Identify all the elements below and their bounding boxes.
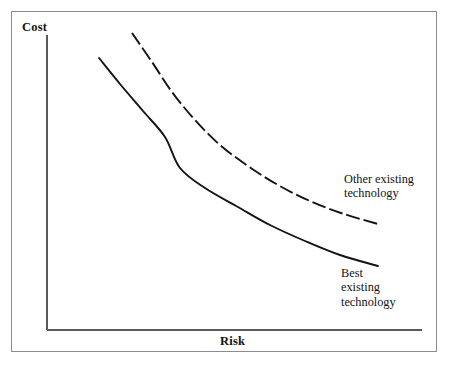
chart-figure: Cost Risk Other existing technology Best… (0, 0, 449, 366)
annotation-other-existing-technology: Other existing technology (344, 172, 414, 201)
annotation-best-line-3: technology (341, 295, 396, 309)
annotation-other-line-2: technology (344, 186, 414, 200)
curve-other-existing-technology (132, 33, 378, 224)
annotation-best-line-1: Best (341, 266, 396, 280)
annotation-best-existing-technology: Best existing technology (341, 266, 396, 309)
x-axis-title: Risk (220, 334, 245, 349)
y-axis-title: Cost (22, 20, 47, 35)
annotation-best-line-2: existing (341, 280, 396, 294)
annotation-other-line-1: Other existing (344, 172, 414, 186)
curve-best-existing-technology (99, 58, 378, 266)
